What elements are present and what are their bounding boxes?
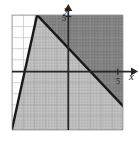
- inequality-graph-figure: y x 5 5: [0, 0, 140, 146]
- coordinate-plane-svg: [0, 0, 140, 146]
- x-axis-tick-label-5: 5: [116, 78, 120, 86]
- x-axis-label: x: [129, 71, 134, 82]
- y-axis-tick-label-5: 5: [62, 15, 66, 23]
